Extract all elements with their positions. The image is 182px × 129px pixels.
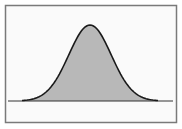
bell-curve-figure <box>0 0 182 129</box>
